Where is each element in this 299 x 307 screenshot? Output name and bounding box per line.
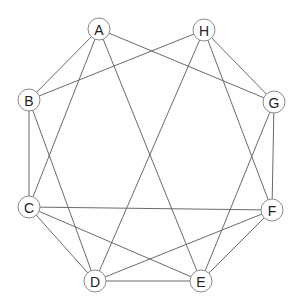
edge-h-f — [204, 30, 272, 210]
edge-b-d — [29, 100, 95, 281]
edge-a-g — [99, 29, 274, 102]
node-f: F — [261, 199, 283, 221]
node-h: H — [193, 19, 215, 41]
node-a: A — [88, 18, 110, 40]
node-label: E — [196, 274, 205, 290]
node-label: A — [94, 22, 104, 38]
node-label: D — [90, 274, 100, 290]
node-g: G — [263, 91, 285, 113]
edge-a-b — [29, 29, 99, 100]
node-label: B — [24, 93, 33, 109]
graph-diagram: AHBGCFDE — [0, 0, 299, 307]
node-d: D — [84, 270, 106, 292]
node-e: E — [190, 270, 212, 292]
edge-h-g — [204, 30, 274, 102]
edge-c-f — [29, 207, 272, 210]
edge-g-f — [272, 102, 274, 210]
node-b: B — [18, 89, 40, 111]
edge-c-d — [29, 207, 95, 281]
node-label: C — [24, 200, 34, 216]
edge-a-c — [29, 29, 99, 207]
node-c: C — [18, 196, 40, 218]
node-label: G — [269, 95, 280, 111]
edges-layer — [29, 29, 274, 281]
edge-g-e — [201, 102, 274, 281]
node-label: F — [268, 203, 277, 219]
node-label: H — [199, 23, 209, 39]
edge-e-f — [201, 210, 272, 281]
nodes-layer: AHBGCFDE — [18, 18, 285, 292]
